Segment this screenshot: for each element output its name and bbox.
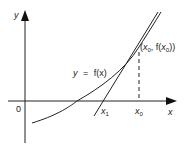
newton-method-diagram: y x 0 y = f(x) (x0, f(x0)) x1 x0 — [0, 0, 192, 149]
x-axis-arrow-icon — [166, 97, 177, 105]
origin-label: 0 — [16, 104, 21, 114]
x-axis-label: x — [167, 107, 173, 117]
point-label-close: )) — [169, 42, 175, 52]
tick-label-x0: x0 — [134, 106, 144, 117]
curve-label: y = f(x) — [72, 68, 107, 78]
curve-label-lhs: y — [72, 68, 78, 78]
point-label-sep: , f( — [151, 42, 162, 52]
y-axis-arrow-icon — [21, 10, 29, 21]
y-axis-label: y — [13, 10, 19, 20]
tick-label-x1: x1 — [100, 106, 110, 117]
tick-x1-sub: 1 — [106, 111, 110, 117]
tangent-line — [94, 12, 158, 116]
point-label: (x0, f(x0)) — [140, 42, 175, 53]
curve-label-rhs: f(x) — [94, 68, 107, 78]
curve-label-eq: = — [83, 68, 88, 78]
tick-x0-sub: 0 — [140, 111, 144, 117]
